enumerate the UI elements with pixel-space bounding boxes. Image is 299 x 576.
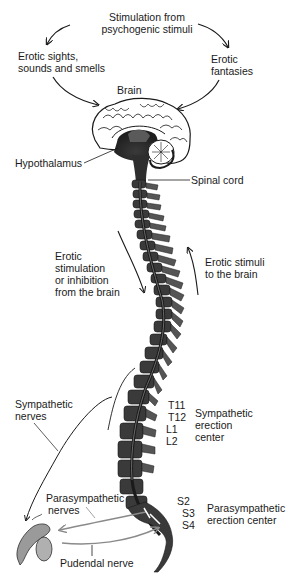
label-ascending-stimuli: Erotic stimuli to the brain (205, 256, 265, 280)
label-erotic-fantasies: Erotic fantasies (211, 53, 253, 77)
arrow-ascending-icon (188, 248, 198, 295)
hypothalamus-leader (84, 148, 118, 163)
label-vertebrae-sacral: S2 S3 S4 (177, 495, 195, 531)
label-parasympathetic-center: Parasympathetic erection center (207, 502, 285, 526)
label-brain: Brain (117, 84, 142, 96)
genital-illustration (17, 514, 52, 565)
spine-illustration (118, 180, 184, 572)
label-sympathetic-nerves: Sympathetic nerves (15, 398, 73, 422)
label-vertebrae-upper: T11 T12 L1 L2 (168, 399, 186, 447)
arrow-sights-to-brain-icon (53, 77, 98, 105)
label-sympathetic-center: Sympathetic erection center (195, 407, 253, 443)
brain-illustration (92, 98, 190, 182)
arrow-to-sights-icon (47, 25, 70, 44)
label-descending-stimulation: Erotic stimulation or inhibition from th… (55, 250, 120, 298)
label-spinal-cord: Spinal cord (191, 174, 244, 186)
label-pudendal-nerve: Pudendal nerve (60, 557, 134, 569)
arrow-descending-icon (118, 231, 144, 292)
label-erotic-sights: Erotic sights, sounds and smells (18, 50, 105, 74)
label-hypothalamus: Hypothalamus (15, 157, 82, 169)
arrow-fantasies-to-brain-icon (178, 80, 219, 109)
diagram-artwork (0, 0, 299, 576)
pudendal-nerve-arrow (62, 528, 158, 544)
sympathetic-nerves-leader (34, 423, 58, 451)
label-psychogenic-stimuli: Stimulation from psychogenic stimuli (82, 11, 212, 35)
label-parasympathetic-nerves: Parasympathetic nerves (46, 492, 124, 516)
